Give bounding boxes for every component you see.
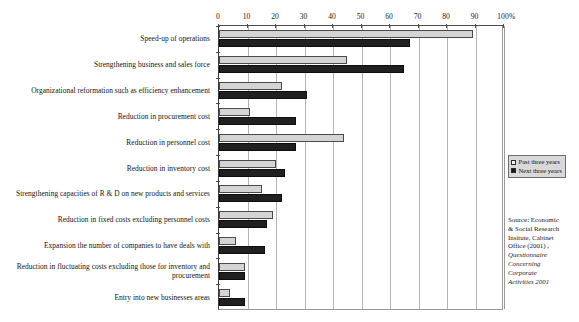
bar-past-8: [219, 237, 236, 245]
x-tick-label-40: 40: [328, 12, 336, 21]
category-tick-2: [216, 78, 220, 79]
category-tick-6: [216, 181, 220, 182]
bar-past-5: [219, 160, 276, 168]
bar-next-4: [219, 143, 296, 151]
category-label-9: Reduction in fluctuating costs excluding…: [0, 262, 210, 280]
category-label-3: Reduction in procurement cost: [0, 112, 210, 121]
gridline-70: [419, 26, 420, 309]
category-tick-8: [216, 233, 220, 234]
x-tick-label-50: 50: [357, 12, 365, 21]
category-tick-1: [216, 52, 220, 53]
bar-past-6: [219, 185, 262, 193]
bar-past-3: [219, 108, 250, 116]
bar-past-9: [219, 263, 245, 271]
bar-next-5: [219, 169, 285, 177]
category-label-4: Reduction in personnel cost: [0, 138, 210, 147]
category-labels: Speed-up of operationsStrengthening busi…: [0, 26, 214, 310]
bar-past-7: [219, 211, 273, 219]
category-label-2: Organizational reformation such as effic…: [0, 86, 210, 95]
source-line-1: Source: Economic: [508, 216, 576, 225]
category-tick-9: [216, 258, 220, 259]
category-tick-3: [216, 103, 220, 104]
plot-area: [218, 26, 503, 310]
source-line-8: Activities 2001: [508, 278, 576, 287]
bar-next-7: [219, 220, 267, 228]
legend-swatch-next-icon: [511, 168, 516, 173]
bar-next-9: [219, 272, 245, 280]
source-line-6: Concerning: [508, 260, 576, 269]
legend-item-past: Past three years: [511, 158, 562, 167]
legend-swatch-past-icon: [511, 160, 516, 165]
category-tick-10: [216, 284, 220, 285]
category-label-5: Reduction in inventory cost: [0, 164, 210, 173]
legend-label-next: Next three years: [519, 167, 562, 176]
source-line-5: Questionnaire: [508, 251, 576, 260]
category-label-6: Strengthening capacities of R & D on new…: [0, 189, 210, 198]
category-label-0: Speed-up of operations: [0, 34, 210, 43]
legend-label-past: Past three years: [519, 158, 560, 167]
bar-past-0: [219, 30, 473, 38]
source-line-2: & Social Research: [508, 225, 576, 234]
chart-legend: Past three years Next three years: [508, 155, 566, 178]
x-tick-label-20: 20: [271, 12, 279, 21]
category-label-1: Strengthening business and sales force: [0, 60, 210, 69]
x-tick-label-100: 100: [497, 12, 508, 21]
category-label-8: Expansion the number of companies to hav…: [0, 241, 210, 250]
category-tick-4: [216, 129, 220, 130]
category-label-10: Entry into new businesses areas: [0, 293, 210, 302]
bar-next-1: [219, 65, 404, 73]
category-tick-7: [216, 207, 220, 208]
axis-unit-label: %: [509, 12, 515, 21]
gridline-80: [447, 26, 448, 309]
x-tick-label-80: 80: [442, 12, 450, 21]
x-tick-label-70: 70: [414, 12, 422, 21]
x-tick-label-30: 30: [300, 12, 308, 21]
category-label-7: Reduction in fixed costs excluding perso…: [0, 215, 210, 224]
chart-figure: 0102030405060708090100 % Speed-up of ope…: [0, 0, 579, 322]
source-note: Source: Economic & Social Research Insit…: [508, 216, 576, 286]
bar-past-4: [219, 134, 344, 142]
bar-next-10: [219, 298, 245, 306]
x-tick-label-0: 0: [216, 12, 220, 21]
x-tick-label-90: 90: [471, 12, 479, 21]
category-tick-5: [216, 155, 220, 156]
gridline-100: [504, 26, 505, 309]
bar-next-2: [219, 91, 307, 99]
bar-past-1: [219, 56, 347, 64]
x-tick-label-10: 10: [243, 12, 251, 21]
x-tick-label-60: 60: [385, 12, 393, 21]
bar-next-6: [219, 194, 282, 202]
bar-next-8: [219, 246, 265, 254]
source-line-3: Insitute, Cabinet: [508, 234, 576, 243]
bar-next-3: [219, 117, 296, 125]
category-tick-0: [216, 26, 220, 27]
bar-next-0: [219, 39, 410, 47]
gridline-90: [476, 26, 477, 309]
legend-item-next: Next three years: [511, 167, 562, 176]
bar-past-2: [219, 82, 282, 90]
source-line-7: Corporate: [508, 269, 576, 278]
source-line-4: Office (2001) ,: [508, 242, 576, 251]
bar-past-10: [219, 289, 230, 297]
